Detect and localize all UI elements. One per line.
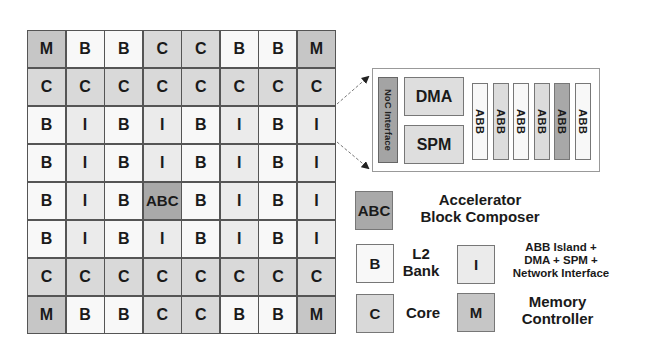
core-tile: C bbox=[259, 69, 296, 105]
core-tile: C bbox=[28, 259, 65, 295]
l2-bank-tile: B bbox=[182, 183, 219, 219]
l2-bank-tile: B bbox=[105, 297, 142, 333]
legend-m-text: Memory Controller bbox=[500, 293, 615, 328]
legend-m-symbol: M bbox=[470, 304, 483, 321]
island-tile: I bbox=[67, 107, 104, 143]
l2-bank-tile: B bbox=[259, 297, 296, 333]
spm-label: SPM bbox=[417, 136, 452, 154]
island-tile: I bbox=[144, 145, 181, 181]
l2-bank-tile: B bbox=[259, 183, 296, 219]
l2-bank-tile: B bbox=[67, 31, 104, 67]
island-tile: I bbox=[298, 221, 335, 257]
abb-block: ABB bbox=[493, 83, 509, 160]
core-tile: C bbox=[144, 31, 181, 67]
dma-label: DMA bbox=[416, 88, 452, 106]
core-tile: C bbox=[298, 259, 335, 295]
abc-tile: ABC bbox=[144, 183, 181, 219]
l2-bank-tile: B bbox=[28, 221, 65, 257]
core-tile: C bbox=[105, 69, 142, 105]
island-tile: I bbox=[67, 145, 104, 181]
legend-b-line2: Bank bbox=[396, 262, 446, 279]
legend-abc-line2: Block Composer bbox=[400, 208, 560, 225]
legend-i-line2: DMA + SPM + bbox=[496, 254, 626, 267]
legend-abc-symbol: ABC bbox=[358, 202, 391, 219]
core-tile: C bbox=[221, 69, 258, 105]
core-tile: C bbox=[105, 259, 142, 295]
abb-block: ABB bbox=[575, 83, 591, 160]
legend-i-line3: Network Interface bbox=[496, 267, 626, 280]
l2-bank-tile: B bbox=[259, 145, 296, 181]
island-tile: I bbox=[298, 145, 335, 181]
core-tile: C bbox=[144, 259, 181, 295]
noc-interface-label: NoC Interface bbox=[383, 89, 394, 151]
memory-controller-tile: M bbox=[298, 297, 335, 333]
memory-controller-tile: M bbox=[298, 31, 335, 67]
island-tile: I bbox=[144, 107, 181, 143]
core-tile: C bbox=[144, 69, 181, 105]
core-tile: C bbox=[221, 259, 258, 295]
l2-bank-tile: B bbox=[259, 107, 296, 143]
legend-m-swatch: M bbox=[457, 293, 495, 332]
island-tile: I bbox=[298, 183, 335, 219]
island-tile: I bbox=[221, 221, 258, 257]
legend-i-symbol: I bbox=[474, 256, 478, 273]
legend-i-line1: ABB Island + bbox=[496, 241, 626, 254]
core-tile: C bbox=[144, 297, 181, 333]
legend-i-text: ABB Island + DMA + SPM + Network Interfa… bbox=[496, 241, 626, 281]
abb-label: ABB bbox=[556, 109, 568, 134]
core-tile: C bbox=[182, 297, 219, 333]
memory-controller-tile: M bbox=[28, 297, 65, 333]
legend-c-symbol: C bbox=[370, 305, 381, 322]
abb-label: ABB bbox=[577, 109, 589, 134]
l2-bank-tile: B bbox=[182, 221, 219, 257]
l2-bank-tile: B bbox=[259, 31, 296, 67]
island-tile: I bbox=[144, 221, 181, 257]
legend-c-line1: Core bbox=[398, 304, 448, 321]
l2-bank-tile: B bbox=[28, 145, 65, 181]
legend-c-swatch: C bbox=[356, 294, 394, 333]
legend-abc-line1: Accelerator bbox=[400, 191, 560, 208]
memory-controller-tile: M bbox=[28, 31, 65, 67]
chip-tile-grid: MBBCCBBMCCCCCCCCBIBIBIBIBIBIBIBIBIBABCBI… bbox=[27, 30, 336, 334]
core-tile: C bbox=[67, 69, 104, 105]
l2-bank-tile: B bbox=[105, 31, 142, 67]
l2-bank-tile: B bbox=[105, 183, 142, 219]
legend-b-swatch: B bbox=[356, 244, 394, 283]
core-tile: C bbox=[28, 69, 65, 105]
l2-bank-tile: B bbox=[259, 221, 296, 257]
legend-m-line1: Memory bbox=[500, 293, 615, 310]
core-tile: C bbox=[67, 259, 104, 295]
abb-block: ABB bbox=[554, 83, 570, 160]
abb-label: ABB bbox=[495, 109, 507, 134]
legend-b-line1: L2 bbox=[396, 245, 446, 262]
l2-bank-tile: B bbox=[105, 221, 142, 257]
l2-bank-tile: B bbox=[105, 145, 142, 181]
core-tile: C bbox=[182, 259, 219, 295]
abb-label: ABB bbox=[474, 109, 486, 134]
l2-bank-tile: B bbox=[67, 297, 104, 333]
l2-bank-tile: B bbox=[182, 107, 219, 143]
island-tile: I bbox=[298, 107, 335, 143]
l2-bank-tile: B bbox=[221, 297, 258, 333]
abb-label: ABB bbox=[515, 109, 527, 134]
legend-c-text: Core bbox=[398, 304, 448, 321]
l2-bank-tile: B bbox=[28, 183, 65, 219]
core-tile: C bbox=[259, 259, 296, 295]
abb-block: ABB bbox=[534, 83, 550, 160]
legend-abc-text: Accelerator Block Composer bbox=[400, 191, 560, 226]
abb-block: ABB bbox=[472, 83, 488, 160]
abb-block: ABB bbox=[513, 83, 529, 160]
dma-block: DMA bbox=[404, 77, 464, 116]
core-tile: C bbox=[298, 69, 335, 105]
l2-bank-tile: B bbox=[105, 107, 142, 143]
abb-label: ABB bbox=[536, 109, 548, 134]
core-tile: C bbox=[182, 69, 219, 105]
legend-abc-swatch: ABC bbox=[355, 191, 393, 230]
spm-block: SPM bbox=[404, 125, 464, 164]
l2-bank-tile: B bbox=[182, 145, 219, 181]
l2-bank-tile: B bbox=[28, 107, 65, 143]
l2-bank-tile: B bbox=[221, 31, 258, 67]
legend-b-text: L2 Bank bbox=[396, 245, 446, 280]
island-tile: I bbox=[67, 221, 104, 257]
core-tile: C bbox=[182, 31, 219, 67]
